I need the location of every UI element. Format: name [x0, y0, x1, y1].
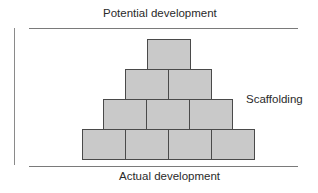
scaffold-block [125, 129, 169, 160]
potential-development-line [29, 28, 298, 29]
scaffold-block [82, 129, 126, 160]
scaffolding-label: Scaffolding [246, 93, 303, 105]
potential-development-label: Potential development [103, 7, 217, 19]
scaffold-block [125, 69, 169, 100]
scaffold-block [211, 129, 255, 160]
scaffold-block [147, 39, 191, 70]
actual-development-line [29, 166, 298, 167]
scaffold-block [189, 99, 233, 130]
scaffold-block [168, 129, 212, 160]
scaffold-block [103, 99, 147, 130]
left-axis-line [14, 28, 15, 165]
actual-development-label: Actual development [119, 170, 220, 182]
scaffold-block [146, 99, 190, 130]
scaffold-block [168, 69, 212, 100]
